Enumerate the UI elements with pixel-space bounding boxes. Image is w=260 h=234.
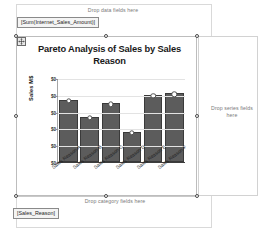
field-tag-category[interactable]: [Sales_Reason] [13, 208, 59, 219]
drop-category-fields-zone[interactable]: Drop category fields here [50, 198, 180, 205]
move-handle-icon[interactable] [17, 37, 26, 46]
y-axis-tick-mark [56, 96, 58, 97]
data-point-marker[interactable] [66, 98, 71, 103]
chart-container[interactable]: Pareto Analysis of Sales by Sales Reason… [16, 36, 197, 196]
chart-design-surface: Drop data fields here [Sum(Internet_Sale… [0, 0, 260, 234]
x-axis-labels: Sales Reason ASales Reason BSales Reason… [57, 164, 184, 196]
selection-handle-bottom-center[interactable] [104, 194, 108, 198]
selection-handle-middle-right[interactable] [195, 114, 199, 118]
selection-handle-bottom-right[interactable] [195, 194, 199, 198]
y-axis-tick-mark [56, 113, 58, 114]
data-point-marker[interactable] [151, 93, 156, 98]
selection-handle-middle-left[interactable] [14, 114, 18, 118]
y-axis-tick-mark [56, 79, 58, 80]
drop-series-fields-zone[interactable]: Drop series fields here [206, 105, 258, 119]
drop-data-fields-zone[interactable]: Drop data fields here [58, 7, 168, 14]
selection-handle-top-right[interactable] [195, 34, 199, 38]
gridline [58, 96, 185, 97]
y-axis-tick-mark [56, 129, 58, 130]
gridline [58, 79, 185, 80]
field-tag-value[interactable]: [Sum(Internet_Sales_Amount)] [17, 17, 99, 28]
data-point-marker[interactable] [87, 115, 92, 120]
data-point-marker[interactable] [108, 102, 113, 107]
y-axis-tick-mark [56, 146, 58, 147]
data-point-marker[interactable] [129, 130, 134, 135]
gridline [58, 129, 185, 130]
y-axis-title: Sales M$ [28, 75, 34, 101]
selection-handle-top-center[interactable] [104, 34, 108, 38]
gridline [58, 113, 185, 114]
chart-title: Pareto Analysis of Sales by Sales Reason [37, 44, 182, 67]
selection-handle-bottom-left[interactable] [14, 194, 18, 198]
